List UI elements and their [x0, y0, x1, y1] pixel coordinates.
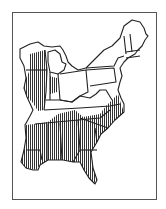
range-map — [0, 0, 166, 209]
